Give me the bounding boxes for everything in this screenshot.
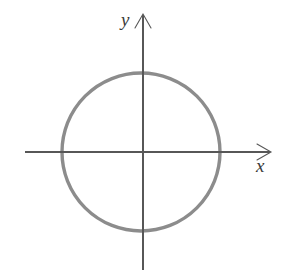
coordinate-plane-graphic: [0, 0, 289, 275]
figure-canvas: y x: [0, 0, 289, 275]
y-axis-label: y: [121, 10, 129, 29]
x-axis-label: x: [256, 156, 264, 175]
